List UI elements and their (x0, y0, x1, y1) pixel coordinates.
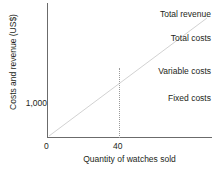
y-axis-title: Costs and revenue (US$) (8, 0, 18, 127)
break-even-dotted-line (119, 68, 120, 138)
y-tick-label-1000: 1,000 (26, 98, 47, 108)
label-variable-costs: Variable costs (158, 66, 211, 76)
label-total-costs: Total costs (171, 33, 211, 43)
label-total-revenue: Total revenue (160, 9, 211, 19)
x-axis-title: Quantity of watches sold (47, 154, 212, 164)
y-axis-line (47, 3, 48, 138)
label-fixed-costs: Fixed costs (168, 93, 211, 103)
x-tick-label-40: 40 (113, 141, 122, 151)
break-even-chart: 1,000 0 40 Costs and revenue (US$) Quant… (0, 0, 216, 177)
series-plot-area (0, 0, 216, 177)
x-tick-label-0: 0 (44, 141, 49, 151)
x-axis-line (47, 137, 212, 138)
